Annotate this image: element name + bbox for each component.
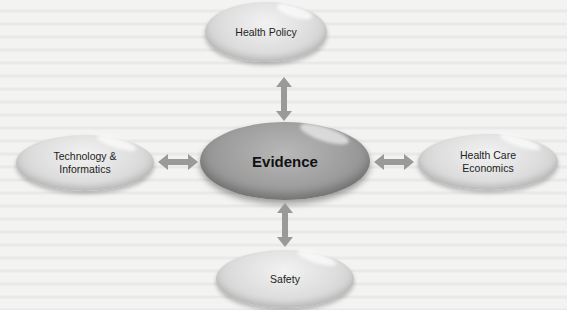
node-health-policy: Health Policy	[205, 2, 327, 62]
node-health-care-economics: Health Care Economics	[418, 134, 558, 190]
node-label: Health Care Economics	[460, 149, 516, 175]
node-technology-informatics: Technology & Informatics	[16, 135, 154, 191]
node-label: Technology & Informatics	[53, 150, 116, 176]
double-arrow-horizontal-right-icon	[374, 154, 414, 170]
double-arrow-vertical-bottom-icon	[277, 203, 293, 247]
node-evidence: Evidence	[200, 122, 370, 200]
node-label: Safety	[270, 273, 300, 286]
double-arrow-vertical-top-icon	[276, 77, 292, 121]
node-label: Health Policy	[235, 26, 296, 39]
center-label: Evidence	[252, 155, 318, 168]
node-safety: Safety	[216, 250, 354, 308]
double-arrow-horizontal-left-icon	[158, 154, 198, 170]
